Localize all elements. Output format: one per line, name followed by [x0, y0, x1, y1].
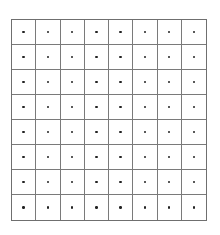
dot-marker	[193, 106, 195, 108]
dot-marker	[193, 131, 195, 133]
dot-marker	[71, 181, 73, 183]
grid-cell	[158, 120, 182, 145]
grid-cell	[12, 120, 36, 145]
grid-cell	[158, 145, 182, 170]
dot-marker	[47, 131, 49, 133]
grid-cell	[133, 70, 157, 95]
grid-cell	[182, 170, 206, 195]
dot-marker	[144, 81, 146, 83]
grid-cell	[36, 70, 60, 95]
grid-cell	[182, 45, 206, 70]
grid-cell	[12, 95, 36, 120]
grid-cell	[36, 20, 60, 45]
dot-marker	[22, 131, 24, 133]
dot-marker	[22, 181, 24, 183]
grid-cell	[85, 170, 109, 195]
dot-marker	[119, 156, 121, 158]
grid-cell	[109, 95, 133, 120]
grid-cell	[61, 20, 85, 45]
dot-marker	[95, 31, 97, 33]
grid-cell	[61, 145, 85, 170]
dot-marker	[22, 81, 24, 83]
grid-cell	[85, 70, 109, 95]
grid-cell	[12, 70, 36, 95]
dot-marker	[193, 206, 195, 208]
grid-cell	[158, 20, 182, 45]
dot-marker	[119, 131, 121, 133]
grid-cell	[158, 70, 182, 95]
grid-cell	[133, 145, 157, 170]
grid-cell	[158, 45, 182, 70]
dot-marker	[95, 206, 97, 208]
grid-cell	[61, 70, 85, 95]
dot-marker	[193, 56, 195, 58]
grid-cell	[61, 95, 85, 120]
dot-marker	[47, 181, 49, 183]
grid-cell	[133, 45, 157, 70]
grid-cell	[109, 195, 133, 220]
dot-marker	[193, 81, 195, 83]
grid-cell	[61, 195, 85, 220]
dot-marker	[144, 31, 146, 33]
dot-marker	[22, 56, 24, 58]
grid-cell	[12, 45, 36, 70]
dot-marker	[22, 206, 24, 208]
grid-cell	[109, 20, 133, 45]
dot-marker	[71, 81, 73, 83]
dot-marker	[47, 206, 49, 208]
dot-marker	[144, 181, 146, 183]
grid-cell	[85, 95, 109, 120]
grid-cell	[109, 120, 133, 145]
grid-cell	[158, 170, 182, 195]
dot-marker	[47, 31, 49, 33]
dot-marker	[95, 56, 97, 58]
grid-cell	[158, 195, 182, 220]
dot-marker	[95, 106, 97, 108]
dot-marker	[168, 206, 170, 208]
grid-cell	[12, 170, 36, 195]
dot-marker	[144, 56, 146, 58]
dot-marker	[119, 31, 121, 33]
grid-cell	[85, 45, 109, 70]
dot-marker	[168, 156, 170, 158]
dot-marker	[168, 181, 170, 183]
dot-marker	[168, 31, 170, 33]
dot-marker	[71, 31, 73, 33]
grid-cell	[61, 120, 85, 145]
dot-marker	[22, 106, 24, 108]
grid-cell	[158, 95, 182, 120]
grid-cell	[12, 20, 36, 45]
dot-marker	[193, 181, 195, 183]
grid-cell	[182, 195, 206, 220]
grid-cell	[85, 20, 109, 45]
dot-marker	[95, 81, 97, 83]
grid-cell	[12, 195, 36, 220]
grid-cell	[182, 95, 206, 120]
grid-cell	[85, 145, 109, 170]
dot-marker	[144, 131, 146, 133]
grid-cell	[109, 45, 133, 70]
grid-cell	[109, 170, 133, 195]
grid-cell	[36, 120, 60, 145]
dot-marker	[71, 56, 73, 58]
grid-cell	[85, 195, 109, 220]
dot-marker	[119, 181, 121, 183]
dot-marker	[144, 156, 146, 158]
grid-cell	[109, 145, 133, 170]
dot-marker	[22, 156, 24, 158]
dot-marker	[71, 156, 73, 158]
dot-grid	[11, 19, 207, 221]
dot-marker	[168, 81, 170, 83]
dot-marker	[95, 181, 97, 183]
dot-marker	[47, 156, 49, 158]
grid-cell	[36, 145, 60, 170]
dot-marker	[119, 81, 121, 83]
dot-marker	[71, 106, 73, 108]
grid-cell	[61, 45, 85, 70]
dot-marker	[119, 106, 121, 108]
grid-cell	[133, 195, 157, 220]
dot-marker	[71, 206, 73, 208]
grid-cell	[36, 170, 60, 195]
grid-cell	[85, 120, 109, 145]
dot-marker	[168, 106, 170, 108]
